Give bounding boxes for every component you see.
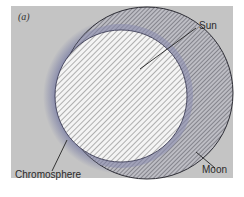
chromosphere-leader-line	[52, 140, 67, 171]
sun-disc	[55, 30, 187, 162]
moon-label: Moon	[202, 164, 227, 175]
panel-label: (a)	[18, 11, 30, 22]
chromosphere-label: Chromosphere	[15, 169, 81, 180]
sun-label: Sun	[199, 20, 217, 31]
